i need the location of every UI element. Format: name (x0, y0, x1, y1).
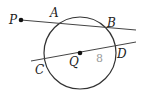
label-c: C (35, 63, 44, 77)
point-p-dot (19, 18, 24, 23)
label-q: Q (69, 55, 79, 69)
secant-pb (21, 20, 136, 30)
label-d: D (116, 47, 127, 61)
label-p: P (8, 13, 18, 27)
radius-length-label: 8 (96, 52, 103, 65)
circle-diagram: P A B C D Q 8 (0, 0, 141, 97)
label-a: A (49, 6, 59, 20)
label-b: B (106, 16, 116, 30)
